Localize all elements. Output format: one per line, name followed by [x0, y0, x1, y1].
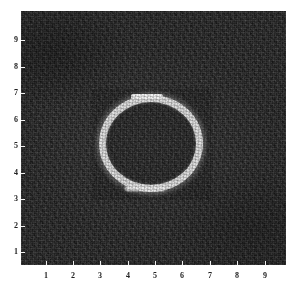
- y-tick-mark-8: [21, 67, 25, 68]
- figure-container: 1 2 3 4 5 6 7 8 9 9 8 7 6 5 4 3 2 1: [0, 0, 297, 292]
- x-tick-label-3: 3: [93, 272, 107, 280]
- y-tick-mark-2: [21, 226, 25, 227]
- bright-ring-group: [21, 11, 286, 265]
- x-tick-label-9: 9: [258, 272, 272, 280]
- x-tick-mark-4: [128, 261, 129, 265]
- plot-area: [21, 11, 286, 265]
- x-tick-label-6: 6: [175, 272, 189, 280]
- x-tick-mark-1: [46, 261, 47, 265]
- x-tick-mark-2: [73, 261, 74, 265]
- y-tick-mark-3: [21, 199, 25, 200]
- x-tick-label-5: 5: [148, 272, 162, 280]
- y-tick-mark-6: [21, 120, 25, 121]
- y-tick-mark-9: [21, 40, 25, 41]
- x-tick-mark-9: [265, 261, 266, 265]
- y-tick-label-7: 7: [6, 89, 18, 97]
- x-tick-label-2: 2: [66, 272, 80, 280]
- x-tick-label-1: 1: [39, 272, 53, 280]
- x-tick-label-7: 7: [203, 272, 217, 280]
- y-tick-label-5: 5: [6, 142, 18, 150]
- x-tick-mark-7: [210, 261, 211, 265]
- y-tick-mark-4: [21, 173, 25, 174]
- y-tick-mark-1: [21, 252, 25, 253]
- x-tick-mark-6: [182, 261, 183, 265]
- y-tick-label-6: 6: [6, 116, 18, 124]
- y-tick-label-4: 4: [6, 169, 18, 177]
- y-tick-mark-5: [21, 146, 25, 147]
- x-tick-mark-8: [237, 261, 238, 265]
- ring-inner-edge: [103, 99, 199, 188]
- y-tick-label-3: 3: [6, 195, 18, 203]
- x-tick-label-8: 8: [230, 272, 244, 280]
- y-tick-mark-7: [21, 93, 25, 94]
- x-tick-mark-5: [155, 261, 156, 265]
- y-tick-label-8: 8: [6, 63, 18, 71]
- y-tick-label-1: 1: [6, 248, 18, 256]
- ring-top-highlight: [131, 94, 163, 99]
- x-tick-mark-3: [100, 261, 101, 265]
- x-tick-label-4: 4: [121, 272, 135, 280]
- y-tick-label-9: 9: [6, 36, 18, 44]
- ring-bottom-highlight: [125, 186, 165, 191]
- y-tick-label-2: 2: [6, 222, 18, 230]
